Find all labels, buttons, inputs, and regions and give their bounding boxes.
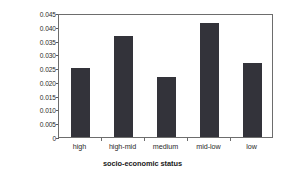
x-axis-title: socio-economic status bbox=[0, 159, 285, 168]
x-axis-tick-label: high-mid bbox=[109, 142, 136, 151]
y-axis-tick-label: 0.015 bbox=[40, 93, 56, 100]
x-axis-tick-label: low bbox=[246, 142, 257, 151]
y-axis-tick-label: 0.010 bbox=[40, 107, 56, 114]
y-axis-tick-label: 0.005 bbox=[40, 121, 56, 128]
x-axis-tick-mark bbox=[144, 138, 145, 141]
bar-low bbox=[243, 63, 263, 137]
bar-high-mid bbox=[114, 36, 134, 137]
y-axis-tick-label: 0.030 bbox=[40, 52, 56, 59]
x-axis-tick-label: medium bbox=[153, 142, 178, 151]
bar-medium bbox=[157, 77, 177, 137]
y-axis-tick-label: 0.035 bbox=[40, 38, 56, 45]
x-axis-tick-label: mid-low bbox=[196, 142, 220, 151]
bars-layer bbox=[59, 15, 272, 137]
bar-chart-figure: age-adjusted incidence (per 100,000) 00.… bbox=[0, 0, 285, 181]
plot-area bbox=[58, 14, 273, 138]
y-axis-tick-labels: 00.0050.0100.0150.0200.0250.0300.0350.04… bbox=[27, 14, 56, 138]
x-axis-tick-mark bbox=[230, 138, 231, 141]
y-axis-tick-label: 0.020 bbox=[40, 79, 56, 86]
y-axis-tick-label: 0.045 bbox=[40, 11, 56, 18]
x-axis-tick-mark bbox=[187, 138, 188, 141]
bar-high bbox=[71, 68, 91, 137]
x-axis-tick-mark bbox=[101, 138, 102, 141]
x-axis-tick-label: high bbox=[73, 142, 86, 151]
y-axis-tick-label: 0.040 bbox=[40, 24, 56, 31]
y-axis-tick-label: 0.025 bbox=[40, 66, 56, 73]
x-axis-tick-labels: highhigh-midmediummid-lowlow bbox=[58, 142, 273, 154]
bar-mid-low bbox=[200, 23, 220, 137]
